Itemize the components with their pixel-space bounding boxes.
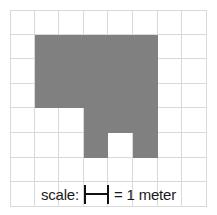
grid-cell [133, 10, 158, 35]
scale-equals-text: = 1 meter [114, 186, 176, 203]
shaded-cell [35, 84, 60, 109]
grid-cell [182, 84, 207, 109]
shaded-cell [59, 59, 84, 84]
shaded-cell [84, 84, 109, 109]
grid-cell [35, 108, 60, 133]
shaded-cell [133, 35, 158, 60]
grid-cell [10, 59, 35, 84]
grid-cell [158, 84, 183, 109]
grid-cell [35, 158, 60, 183]
shaded-cell [84, 35, 109, 60]
shaded-cell [59, 35, 84, 60]
shaded-cell [108, 84, 133, 109]
grid-cell [10, 10, 35, 35]
shaded-cell [59, 84, 84, 109]
grid-cell [158, 59, 183, 84]
shaded-cell [35, 35, 60, 60]
shaded-cell [133, 84, 158, 109]
grid-cell [59, 158, 84, 183]
scale-bar-right-tick [107, 185, 109, 204]
grid-cell [158, 108, 183, 133]
grid-cell [10, 133, 35, 158]
grid-cell [182, 108, 207, 133]
scale-bar-span [84, 193, 109, 195]
scale-legend: scale: = 1 meter [10, 182, 207, 207]
grid-cell [10, 158, 35, 183]
shaded-cell [35, 59, 60, 84]
scale-label: scale: [41, 186, 79, 203]
grid-cell [59, 10, 84, 35]
shaded-cell [133, 59, 158, 84]
grid-cell [182, 35, 207, 60]
grid-cell [133, 158, 158, 183]
grid-cell [182, 59, 207, 84]
shaded-cell [108, 59, 133, 84]
shaded-cell [84, 59, 109, 84]
shaded-cell [108, 35, 133, 60]
shaded-cell [133, 108, 158, 133]
grid-cell [182, 10, 207, 35]
grid-cell [108, 133, 133, 158]
scale-bar-icon [84, 185, 109, 204]
grid-cell [108, 10, 133, 35]
shaded-cell [133, 133, 158, 158]
grid-cell [182, 158, 207, 183]
grid-cell [158, 158, 183, 183]
grid-cell [35, 10, 60, 35]
measurement-grid [10, 10, 207, 207]
grid-cell [84, 158, 109, 183]
grid-cell [59, 133, 84, 158]
shaded-cell [84, 108, 109, 133]
grid-cell [10, 108, 35, 133]
grid-cell [84, 10, 109, 35]
grid-cell [158, 133, 183, 158]
grid-cell [59, 108, 84, 133]
shaded-cell [108, 108, 133, 133]
grid-cell [35, 133, 60, 158]
grid-figure: scale: = 1 meter [0, 0, 217, 215]
grid-cell [182, 133, 207, 158]
grid-cell [10, 84, 35, 109]
shaded-cell [84, 133, 109, 158]
grid-cell [10, 35, 35, 60]
grid-cell [158, 35, 183, 60]
grid-cell [158, 10, 183, 35]
grid-cell [108, 158, 133, 183]
